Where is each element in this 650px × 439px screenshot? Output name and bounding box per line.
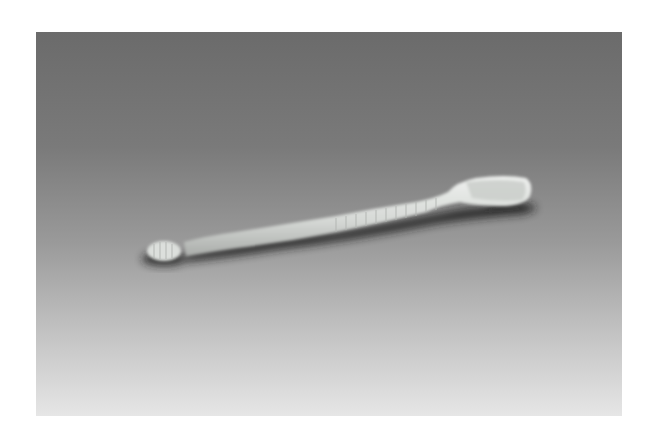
lure-shadow xyxy=(142,202,536,266)
product-photo xyxy=(36,32,622,416)
fishing-lure-image xyxy=(36,32,622,416)
